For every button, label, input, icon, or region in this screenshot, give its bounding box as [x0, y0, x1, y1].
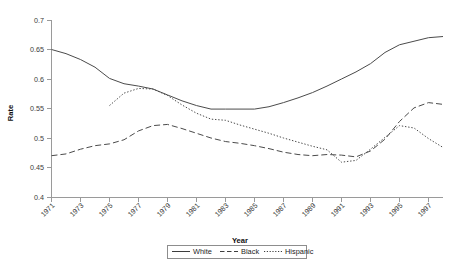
x-tick-label: 1989	[300, 201, 318, 219]
y-tick-group: 0.40.450.50.550.60.650.7	[30, 16, 52, 202]
y-tick-label: 0.5	[34, 134, 44, 143]
figure-root: 0.40.450.50.550.60.650.7 197119731975197…	[0, 0, 459, 273]
legend-label-hispanic: Hispanic	[285, 247, 314, 256]
x-tick-label: 1985	[242, 201, 260, 219]
y-tick-label: 0.65	[30, 45, 44, 54]
x-tick-label: 1993	[358, 201, 376, 219]
x-tick-label: 1991	[329, 201, 347, 219]
series-line-white	[52, 37, 444, 110]
y-tick-label: 0.45	[30, 163, 44, 172]
series-line-black	[52, 103, 444, 157]
y-tick-label: 0.55	[30, 104, 44, 113]
y-axis-title: Rate	[6, 105, 15, 121]
x-tick-label: 1979	[155, 201, 173, 219]
x-tick-label: 1973	[68, 201, 86, 219]
legend-label-black: Black	[241, 247, 259, 256]
x-tick-label: 1987	[271, 201, 289, 219]
line-chart: 0.40.450.50.550.60.650.7 197119731975197…	[0, 0, 459, 273]
x-tick-label: 1981	[184, 201, 202, 219]
x-tick-group: 1971197319751977197919811983198519871989…	[39, 198, 434, 219]
y-tick-label: 0.7	[34, 16, 44, 25]
x-tick-label: 1977	[126, 201, 144, 219]
x-tick-label: 1975	[97, 201, 115, 219]
chart-legend: WhiteBlackHispanic	[167, 245, 314, 258]
y-tick-label: 0.6	[34, 75, 44, 84]
x-tick-label: 1983	[213, 201, 231, 219]
series-group	[52, 37, 444, 163]
x-tick-label: 1995	[387, 201, 405, 219]
x-tick-label: 1971	[39, 201, 57, 219]
x-axis-title: Year	[232, 236, 248, 245]
x-tick-label: 1997	[416, 201, 434, 219]
legend-label-white: White	[193, 247, 212, 256]
y-tick-label: 0.4	[34, 193, 44, 202]
